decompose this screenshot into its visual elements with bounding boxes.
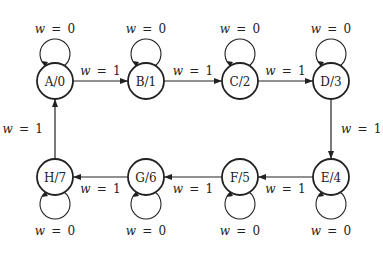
state-label: E/4 xyxy=(321,171,342,185)
state-label: A/0 xyxy=(44,75,65,89)
state-diagram: w = 1w = 1w = 1w = 1w = 1w = 1w = 1w = 1… xyxy=(0,0,383,255)
transition-label: w = 1 xyxy=(265,64,305,78)
transition-label: w = 1 xyxy=(341,122,381,136)
self-loop-label: w = 0 xyxy=(220,224,260,238)
transition-B-C: w = 1 xyxy=(164,64,222,81)
transition-label: w = 1 xyxy=(80,182,120,196)
self-loop-label: w = 0 xyxy=(311,224,351,238)
state-node-G: G/6 xyxy=(128,159,164,195)
state-label: H/7 xyxy=(44,171,66,185)
transition-D-E: w = 1 xyxy=(331,99,381,159)
self-loops-layer: w = 0w = 0w = 0w = 0w = 0w = 0w = 0w = 0 xyxy=(35,22,351,238)
self-loop-label: w = 0 xyxy=(35,224,75,238)
self-loop-label: w = 0 xyxy=(126,22,166,36)
self-loop-H: w = 0 xyxy=(35,191,75,238)
transition-A-B: w = 1 xyxy=(73,64,128,81)
state-node-H: H/7 xyxy=(37,159,73,195)
self-loop-D: w = 0 xyxy=(311,22,351,67)
transition-G-H: w = 1 xyxy=(73,177,128,196)
self-loop-A: w = 0 xyxy=(35,22,75,67)
self-loop-G: w = 0 xyxy=(126,191,166,238)
state-node-E: E/4 xyxy=(313,159,349,195)
self-loop-label: w = 0 xyxy=(311,22,351,36)
state-node-C: C/2 xyxy=(222,63,258,99)
transition-label: w = 1 xyxy=(173,182,213,196)
state-label: D/3 xyxy=(320,75,341,89)
state-node-F: F/5 xyxy=(222,159,258,195)
self-loop-label: w = 0 xyxy=(220,22,260,36)
transition-H-A: w = 1 xyxy=(3,99,55,159)
transition-label: w = 1 xyxy=(3,122,43,136)
state-label: C/2 xyxy=(230,75,251,89)
transition-label: w = 1 xyxy=(265,182,305,196)
self-loop-F: w = 0 xyxy=(220,191,260,238)
self-loop-label: w = 0 xyxy=(35,22,75,36)
state-label: B/1 xyxy=(136,75,157,89)
self-loop-C: w = 0 xyxy=(220,22,260,67)
state-label: G/6 xyxy=(135,171,156,185)
transition-C-D: w = 1 xyxy=(258,64,313,81)
self-loop-E: w = 0 xyxy=(311,191,351,238)
self-loop-B: w = 0 xyxy=(126,22,166,67)
transition-E-F: w = 1 xyxy=(258,177,313,196)
transition-label: w = 1 xyxy=(80,64,120,78)
self-loop-label: w = 0 xyxy=(126,224,166,238)
state-node-A: A/0 xyxy=(37,63,73,99)
nodes-layer: A/0B/1C/2D/3E/4F/5G/6H/7 xyxy=(37,63,349,195)
state-node-B: B/1 xyxy=(128,63,164,99)
state-node-D: D/3 xyxy=(313,63,349,99)
transition-label: w = 1 xyxy=(173,64,213,78)
state-label: F/5 xyxy=(230,171,250,185)
transition-F-G: w = 1 xyxy=(164,177,222,196)
